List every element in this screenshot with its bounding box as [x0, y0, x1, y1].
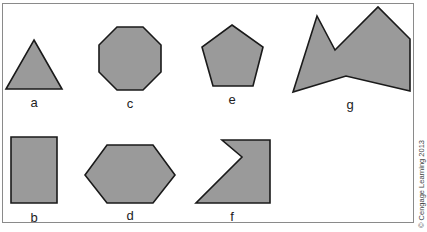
label-a: a	[30, 96, 37, 109]
triangle-shape-a	[6, 40, 62, 89]
rectangle-shape-b	[11, 137, 57, 203]
concave-shape-f	[196, 140, 270, 203]
label-g: g	[346, 98, 353, 111]
copyright-credit: © Cengage Learning 2013	[417, 140, 426, 228]
octagon-shape-c	[99, 27, 161, 90]
label-c: c	[127, 97, 134, 110]
pentagon-shape-e	[202, 25, 263, 86]
label-d: d	[126, 209, 133, 222]
label-b: b	[30, 211, 37, 224]
label-e: e	[228, 93, 235, 106]
irregular-shape-g	[293, 7, 410, 92]
shapes-canvas	[0, 0, 427, 232]
hexagon-shape-d	[85, 145, 175, 203]
label-f: f	[230, 210, 234, 223]
